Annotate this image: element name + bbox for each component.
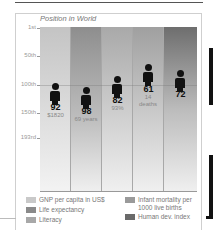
chart-title: Position in World <box>40 14 96 23</box>
side-bar-top <box>209 48 213 105</box>
legend-swatch-life-expectancy <box>26 207 36 213</box>
legend-swatch-literacy <box>26 217 36 223</box>
legend-label-infant-mortality-2: 1000 live births <box>138 204 182 211</box>
y-tick-label: 1st <box>0 24 36 30</box>
legend-label-infant-mortality: Infant mortality per <box>138 196 192 203</box>
rank-value: 92 <box>40 102 71 112</box>
person-icon <box>142 64 154 86</box>
detail-value: $1820 <box>40 112 71 119</box>
legend-swatch-infant-mortality <box>125 197 135 203</box>
x-axis-line <box>40 191 197 192</box>
detail-value: 93% <box>102 105 133 112</box>
y-tick-label: 50th <box>0 52 36 58</box>
rank-value: 98 <box>71 106 102 116</box>
legend-label-literacy: Literacy <box>39 216 62 223</box>
column-infant-mortality <box>133 27 164 192</box>
rank-value: 61 <box>133 84 164 94</box>
legend-swatch-hdi <box>125 214 135 220</box>
legend-swatch-gnp <box>26 197 36 203</box>
y-tick-label: 150th <box>0 109 36 115</box>
legend-label-gnp: GNP per capita in US$ <box>39 196 105 203</box>
detail-value: 14 deaths <box>135 94 161 107</box>
column-hdi <box>164 27 197 192</box>
y-tick-label: 100th <box>0 81 36 87</box>
side-bar-foot <box>206 216 213 219</box>
y-tick-label: 193rd <box>0 134 36 140</box>
rank-value: 82 <box>102 95 133 105</box>
side-bar-bottom <box>209 155 213 219</box>
legend-label-life-expectancy: Life expectancy <box>39 206 84 213</box>
left-rule <box>0 218 16 219</box>
rank-value: 72 <box>165 89 196 99</box>
top-rule <box>15 2 203 3</box>
legend-label-hdi: Human dev. index <box>138 213 190 220</box>
detail-value: 69 years <box>73 116 99 123</box>
